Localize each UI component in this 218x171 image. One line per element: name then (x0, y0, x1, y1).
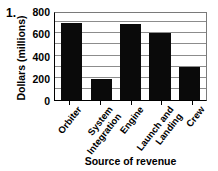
bar[interactable] (179, 67, 200, 100)
category-label-line: Orbiter (56, 104, 84, 136)
bar[interactable] (120, 24, 141, 100)
y-axis-tick-label: 600 (32, 28, 50, 40)
bar-slot (86, 13, 115, 100)
y-axis-tick-label: 800 (32, 6, 50, 18)
y-axis-tick-label: 0 (44, 95, 50, 107)
x-axis-title: Source of revenue (54, 155, 207, 167)
y-axis-tick-label: 200 (32, 73, 50, 85)
category-label-line: Crew (183, 104, 206, 129)
bar[interactable] (91, 79, 112, 100)
bar[interactable] (149, 33, 170, 100)
y-axis-tick-labels: 0200400600800 (26, 12, 52, 101)
bar[interactable] (61, 23, 82, 100)
bar-slot (175, 13, 204, 100)
y-axis-tick-label: 400 (32, 51, 50, 63)
bar-slot (145, 13, 174, 100)
x-axis-category-label: Crew (183, 104, 206, 129)
bars-group (55, 13, 206, 100)
x-axis-category-labels: OrbiterSystemIntegrationEngineLaunch and… (54, 104, 207, 150)
plot-area (54, 12, 207, 101)
x-axis-category-label: Orbiter (56, 104, 84, 136)
bar-slot (57, 13, 86, 100)
bar-slot (116, 13, 145, 100)
figure-container: 1. Dollars (millions) 0200400600800 Orbi… (0, 0, 218, 171)
